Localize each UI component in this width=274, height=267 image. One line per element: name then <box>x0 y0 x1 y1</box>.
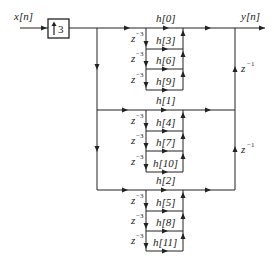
polyphase-group-2: h[2] h[5] h[8] h[11] z−3 z−3 z−3 <box>130 174 186 254</box>
polyphase-diagram: x[n] 3 y[n] z −1 z −1 <box>0 0 274 267</box>
polyphase-group-0: h[0] h[3] h[6] h[9] z−3 z−3 z−3 <box>130 12 186 93</box>
polyphase-group-1: h[1] h[4] h[7] h[10] z−3 z−3 z−3 <box>130 94 186 175</box>
outer-delay-1: z <box>240 62 246 74</box>
svg-text:h[4]: h[4] <box>156 116 176 128</box>
upsample-factor: 3 <box>58 23 64 35</box>
svg-text:−3: −3 <box>136 112 144 120</box>
svg-text:−3: −3 <box>136 50 144 58</box>
svg-text:−3: −3 <box>136 71 144 79</box>
upsampler-block: 3 <box>48 19 69 38</box>
svg-text:h[7]: h[7] <box>156 136 176 148</box>
svg-text:−3: −3 <box>136 212 144 220</box>
svg-text:−3: −3 <box>136 192 144 200</box>
svg-text:h[0]: h[0] <box>156 12 176 24</box>
svg-text:h[9]: h[9] <box>156 75 176 87</box>
svg-text:−3: −3 <box>136 153 144 161</box>
svg-text:h[5]: h[5] <box>156 196 176 208</box>
svg-text:h[6]: h[6] <box>156 54 176 66</box>
svg-text:h[3]: h[3] <box>156 34 176 46</box>
svg-text:h[2]: h[2] <box>156 174 176 186</box>
svg-text:−3: −3 <box>136 232 144 240</box>
svg-text:−1: −1 <box>247 60 255 68</box>
input-branch <box>20 26 48 31</box>
input-label: x[n] <box>13 10 33 22</box>
output-label: y[n] <box>240 10 260 22</box>
svg-text:−3: −3 <box>136 30 144 38</box>
svg-text:−3: −3 <box>136 132 144 140</box>
svg-text:h[8]: h[8] <box>156 216 176 228</box>
svg-text:−1: −1 <box>247 141 255 149</box>
svg-text:h[11]: h[11] <box>153 236 177 248</box>
outer-delay-2: z <box>240 143 246 155</box>
svg-text:h[10]: h[10] <box>153 157 178 169</box>
svg-text:h[1]: h[1] <box>156 94 176 106</box>
